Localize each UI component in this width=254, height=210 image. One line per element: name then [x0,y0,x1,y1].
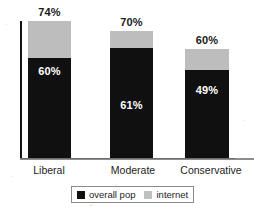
bar-inner-label-moderate: 61% [110,99,153,111]
legend-label-overall-pop: overall pop [89,189,135,200]
x-tick-label-conservative: Conservative [172,164,250,176]
gray-swatch-icon [144,191,152,199]
legend-item-internet: internet [144,189,188,200]
bar-total-label-liberal: 74% [28,6,71,18]
bar-segment-overall-pop-conservative: 49% [185,70,229,158]
bar-moderate: 61% [110,31,153,158]
scan-speckle [243,120,244,121]
chart-legend: overall pop internet [71,186,194,203]
bar-segment-overall-pop-liberal: 60% [28,58,71,158]
bar-total-label-conservative: 60% [185,34,229,46]
bar-conservative: 49% [185,49,229,158]
bar-chart: 74% 60% 70% 61% 60% 49% Liberal Moderate… [0,0,254,210]
clipped-header-text [146,0,250,4]
bar-liberal: 60% [28,21,71,158]
x-tick-label-liberal: Liberal [18,164,80,176]
scan-speckle [90,205,92,206]
legend-label-internet: internet [156,189,188,200]
bar-inner-label-conservative: 49% [185,84,229,96]
x-tick-label-moderate: Moderate [100,164,166,176]
bar-segment-internet-liberal [28,21,71,58]
scan-speckle [12,176,13,177]
x-axis-line-shadow [20,158,235,159]
bar-total-label-moderate: 70% [110,16,153,28]
y-axis-line [20,21,22,159]
scan-speckle [6,24,7,25]
bar-segment-internet-moderate [110,31,153,48]
legend-item-overall-pop: overall pop [77,189,135,200]
bar-segment-overall-pop-moderate: 61% [110,48,153,158]
bar-segment-internet-conservative [185,49,229,70]
black-swatch-icon [77,191,85,199]
bar-inner-label-liberal: 60% [28,65,71,77]
